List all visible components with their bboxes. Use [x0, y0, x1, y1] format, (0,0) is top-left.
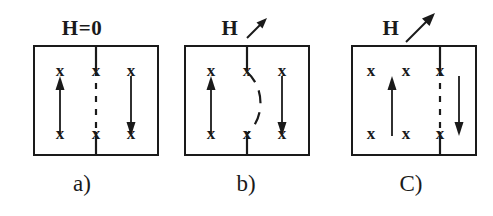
domain-wall-figure: H=0 x x x x x x a) [0, 0, 493, 216]
panel-c-caption: C) [329, 172, 493, 195]
panel-b-caption: b) [164, 172, 328, 195]
panel-a-caption: a) [0, 172, 164, 195]
x-mark: x [56, 62, 65, 79]
x-mark: x [127, 62, 136, 79]
x-mark: x [92, 125, 101, 142]
x-mark: x [278, 125, 287, 142]
x-mark: x [278, 62, 287, 79]
x-mark: x [402, 62, 411, 79]
x-mark: x [402, 125, 411, 142]
panel-b: H x x x x [164, 0, 328, 216]
x-mark: x [92, 62, 101, 79]
x-mark: x [243, 62, 252, 79]
x-mark: x [243, 125, 252, 142]
x-mark: x [56, 125, 65, 142]
up-arrow-c [388, 76, 397, 136]
x-mark: x [367, 125, 376, 142]
down-arrow-c [455, 76, 464, 136]
x-mark: x [436, 125, 445, 142]
x-mark: x [436, 62, 445, 79]
panel-a: H=0 x x x x x x a) [0, 0, 164, 216]
x-mark: x [367, 62, 376, 79]
panel-c: H x x [329, 0, 493, 216]
x-mark: x [207, 125, 216, 142]
x-mark: x [127, 125, 136, 142]
x-mark: x [207, 62, 216, 79]
